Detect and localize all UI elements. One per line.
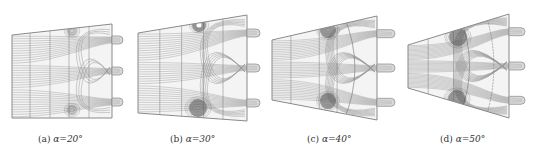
- streamline-figure: [0, 0, 538, 156]
- caption-a: (a) α=20°: [38, 134, 83, 144]
- caption-c-label: (c): [307, 134, 319, 144]
- caption-c-angle: α=40°: [322, 134, 352, 144]
- caption-d-angle: α=50°: [456, 134, 486, 144]
- caption-b-label: (b): [170, 134, 183, 144]
- panel-c: [272, 0, 395, 156]
- panel-d: [408, 0, 525, 156]
- caption-b-angle: α=30°: [186, 134, 216, 144]
- caption-a-label: (a): [38, 134, 50, 144]
- caption-b: (b) α=30°: [170, 134, 215, 144]
- caption-c: (c) α=40°: [307, 134, 352, 144]
- caption-d-label: (d): [440, 134, 453, 144]
- caption-d: (d) α=50°: [440, 134, 485, 144]
- caption-a-angle: α=20°: [53, 134, 83, 144]
- panel-b: [138, 0, 260, 156]
- panel-a: [12, 0, 123, 156]
